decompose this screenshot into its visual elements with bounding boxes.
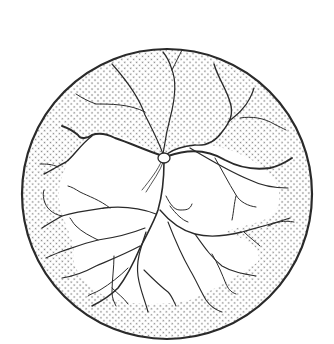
retina-diagram xyxy=(0,0,334,344)
optic-disc xyxy=(158,153,170,163)
stippled-periphery xyxy=(0,0,334,344)
retina-svg xyxy=(0,0,334,344)
